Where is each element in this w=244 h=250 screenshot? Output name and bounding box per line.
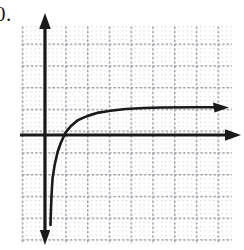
x-axis-arrow-right	[225, 129, 241, 141]
graph-figure: 0.	[0, 0, 244, 250]
y-axis-arrow-up	[39, 13, 51, 29]
coordinate-plane	[0, 0, 244, 250]
